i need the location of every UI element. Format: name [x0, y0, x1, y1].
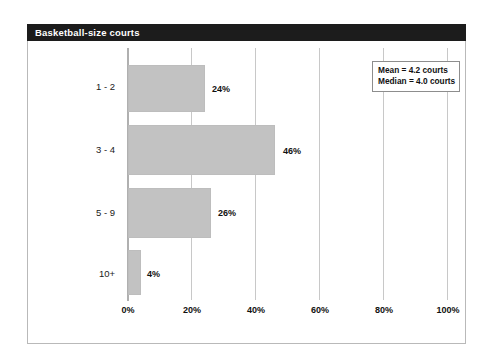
stats-mean: Mean = 4.2 courts — [378, 65, 454, 76]
xtick-label-100: 100% — [436, 305, 459, 315]
stats-annotation-box: Mean = 4.2 courts Median = 4.0 courts — [372, 61, 460, 92]
stats-median: Median = 4.0 courts — [378, 76, 454, 87]
category-label-5-9: 5 - 9 — [60, 207, 115, 218]
bar-value-5-9: 26% — [218, 208, 236, 218]
xtick-label-80: 80% — [375, 305, 393, 315]
bar-1-2[interactable] — [128, 65, 205, 112]
bar-10plus[interactable] — [128, 250, 141, 295]
category-label-10plus: 10+ — [60, 268, 115, 279]
bar-value-10plus: 4% — [147, 269, 160, 279]
category-label-3-4: 3 - 4 — [60, 144, 115, 155]
category-label-1-2: 1 - 2 — [60, 81, 115, 92]
bar-value-3-4: 46% — [283, 146, 301, 156]
bar-value-1-2: 24% — [212, 84, 230, 94]
bar-5-9[interactable] — [128, 188, 211, 238]
xtick-label-20: 20% — [183, 305, 201, 315]
bar-3-4[interactable] — [128, 125, 275, 175]
xtick-label-60: 60% — [311, 305, 329, 315]
xtick-label-40: 40% — [247, 305, 265, 315]
gridline-60 — [319, 48, 320, 300]
xtick-label-0: 0% — [121, 305, 134, 315]
